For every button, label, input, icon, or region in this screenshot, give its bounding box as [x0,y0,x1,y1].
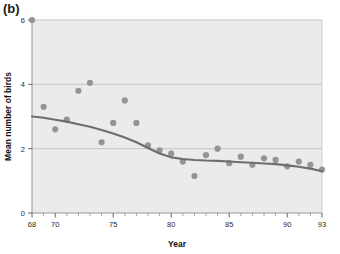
data-point [99,139,105,145]
data-point [238,154,244,160]
y-axis-title: Mean number of birds [3,72,13,161]
data-point [203,152,209,158]
x-tick-label-70: 70 [51,220,59,229]
y-tick-label-6: 6 [21,16,25,25]
x-tick-label-90: 90 [283,220,291,229]
x-tick-label-75: 75 [109,220,117,229]
data-point [41,104,47,110]
x-tick-label-85: 85 [225,220,233,229]
data-point [110,120,116,126]
y-tick-label-4: 4 [21,80,25,89]
x-tick-label-68: 68 [28,220,36,229]
data-point [122,97,128,103]
y-tick-label-0: 0 [21,209,25,218]
data-point [296,158,302,164]
x-tick-label-93: 93 [318,220,326,229]
data-point [87,80,93,86]
data-point [29,17,35,23]
figure-panel: (b) 687075808590930246YearMean number of… [0,0,340,254]
data-point [307,162,313,168]
data-point [215,146,221,152]
data-point [52,126,58,132]
y-tick-label-2: 2 [21,145,25,154]
data-point [75,88,81,94]
plot-area-background [32,20,322,213]
data-point [133,120,139,126]
scatter-plot: 687075808590930246YearMean number of bir… [0,0,340,254]
data-point [273,157,279,163]
data-point [261,155,267,161]
x-tick-label-80: 80 [167,220,175,229]
x-axis-title: Year [168,239,187,249]
data-point [191,173,197,179]
